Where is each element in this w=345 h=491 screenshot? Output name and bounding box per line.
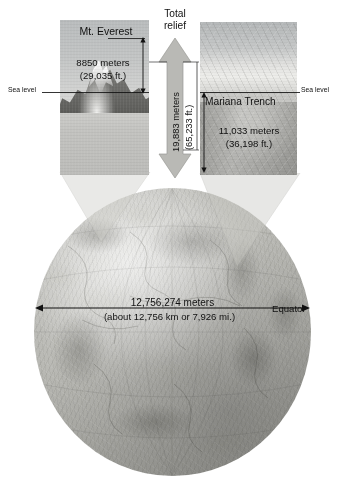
total-relief-title: Total relief: [147, 8, 203, 31]
everest-photo-grain: [60, 20, 149, 175]
total-relief-meters: 19,883 meters: [170, 92, 181, 152]
mount-everest-inset-panel: [60, 20, 149, 175]
earth-diameter-meters: 12,756,274 meters: [70, 297, 275, 308]
total-relief-line2: relief: [164, 20, 186, 31]
total-relief-feet: (65,233 ft.): [183, 105, 194, 150]
mariana-callout-cone: [196, 173, 302, 269]
figure-canvas: Mt. Everest 8850 meters (29,035 ft.) Mar…: [0, 0, 345, 491]
everest-callout-cone: [55, 172, 155, 244]
sea-level-label-left: Sea level: [8, 86, 36, 93]
everest-photo: [60, 20, 149, 175]
total-relief-line1: Total: [164, 8, 186, 19]
mariana-title: Mariana Trench: [205, 96, 301, 107]
earth-diameter-sub: (about 12,756 km or 7,926 mi.): [62, 311, 277, 322]
everest-meters: 8850 meters: [60, 57, 146, 68]
everest-feet: (29,035 ft.): [60, 70, 146, 81]
equator-label: Equator: [272, 303, 306, 314]
everest-title: Mt. Everest: [68, 25, 144, 37]
mariana-meters: 11,033 meters: [200, 125, 298, 136]
mariana-feet: (36,198 ft.): [200, 138, 298, 149]
sea-level-label-right: Sea level: [301, 86, 329, 93]
